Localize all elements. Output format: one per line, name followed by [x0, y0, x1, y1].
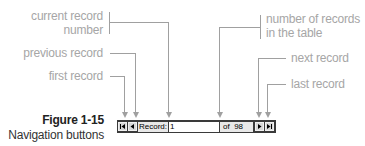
previous-record-icon — [129, 123, 136, 130]
label-last-record: last record — [291, 78, 345, 90]
leader-number-of-records-v — [219, 27, 220, 113]
arrow-last-record-icon — [265, 112, 271, 118]
label-current-record-line2: number — [64, 24, 104, 36]
record-count: of 98 — [220, 122, 253, 132]
label-number-of-records-line1: number of records — [266, 13, 360, 25]
of-label: of — [223, 122, 230, 131]
leader-next-record-v — [258, 58, 259, 113]
leader-next-record-h — [258, 58, 286, 59]
first-record-icon — [119, 123, 126, 130]
next-record-icon — [256, 123, 263, 130]
label-previous-record: previous record — [23, 47, 103, 59]
bracket-number-of-records — [260, 15, 261, 39]
label-first-record: first record — [49, 70, 103, 82]
total-records: 98 — [234, 122, 243, 131]
next-record-button[interactable] — [255, 122, 264, 131]
leader-last-record-h — [267, 84, 286, 85]
leader-previous-record-h — [110, 53, 136, 54]
leader-current-record-h — [110, 22, 169, 23]
arrow-previous-record-icon — [133, 112, 139, 118]
record-navigation-bar: Record: 1 of 98 — [117, 120, 276, 133]
leader-first-record-h — [110, 76, 125, 77]
label-number-of-records-line2: in the table — [266, 27, 322, 39]
current-record-input[interactable]: 1 — [169, 122, 219, 132]
previous-record-button[interactable] — [128, 122, 137, 131]
first-record-button[interactable] — [118, 122, 127, 131]
label-current-record-line1: current record — [31, 10, 103, 22]
leader-current-record-v — [168, 22, 169, 113]
arrow-number-of-records-icon — [217, 112, 223, 118]
last-record-icon — [266, 123, 273, 130]
bracket-current-record — [109, 12, 110, 34]
arrow-first-record-icon — [122, 112, 128, 118]
leader-last-record-v — [267, 84, 268, 113]
figure-subtitle: Navigation buttons — [8, 128, 104, 142]
arrow-current-record-icon — [166, 112, 172, 118]
leader-number-of-records-h — [219, 27, 260, 28]
arrow-next-record-icon — [256, 112, 262, 118]
record-label: Record: — [138, 122, 168, 132]
figure-title: Figure 1-15 — [42, 113, 104, 127]
last-record-button[interactable] — [265, 122, 274, 131]
leader-previous-record-v — [135, 53, 136, 113]
label-next-record: next record — [291, 52, 349, 64]
leader-first-record-v — [124, 76, 125, 113]
